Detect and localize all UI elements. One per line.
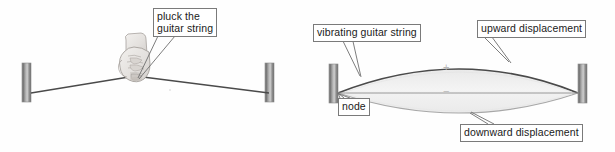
callout-downward-displacement: downward displacement xyxy=(460,124,583,142)
right-bridge-post xyxy=(265,63,274,102)
callout-pluck-line1: pluck the xyxy=(157,10,200,22)
right-panel-left-nut-post xyxy=(329,64,338,103)
plucked-string xyxy=(31,76,269,93)
right-panel-right-bridge-post xyxy=(578,64,587,103)
vibration-envelope xyxy=(338,69,578,113)
left-panel-group xyxy=(22,33,274,102)
figure-canvas: pluck theguitar string vibrating guitar … xyxy=(0,0,615,152)
callout-vibrating-guitar-string: vibrating guitar string xyxy=(313,24,421,42)
vibrating-string-leader-line xyxy=(341,37,361,77)
plus-sign-symbol: + xyxy=(443,62,449,73)
minus-sign-symbol: − xyxy=(443,86,449,97)
scan-speck xyxy=(169,89,170,90)
left-nut-post xyxy=(22,63,31,102)
hand-plucking-icon xyxy=(118,33,150,82)
callout-upward-displacement: upward displacement xyxy=(477,20,586,38)
upward-displacement-leader-line xyxy=(480,33,511,63)
callout-pluck-the-guitar-string: pluck theguitar string xyxy=(153,8,217,37)
callout-pluck-line2: guitar string xyxy=(157,22,213,34)
downward-displacement-leader-line xyxy=(470,112,494,124)
callout-node: node xyxy=(338,98,370,116)
